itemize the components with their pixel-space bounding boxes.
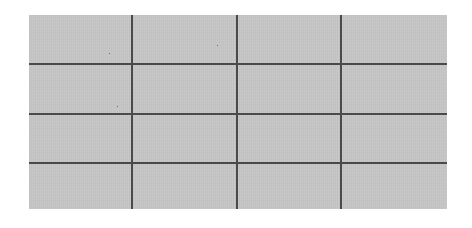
grid-cell-r3-c4 [342,115,447,162]
grid-cell-r3-c1 [29,115,131,162]
grid-line-vertical-3 [340,15,342,209]
grid-cell-r1-c3 [238,15,340,63]
grid-cell-r1-c1 [29,15,131,63]
grid-panel [29,15,447,209]
grid-cell-r3-c2 [133,115,236,162]
grid-cell-r2-c4 [342,65,447,113]
grid-cell-r4-c4 [342,164,447,209]
grid-cell-r2-c1 [29,65,131,113]
grid-cell-r3-c3 [238,115,340,162]
grid-cell-r2-c2 [133,65,236,113]
grid-cell-r4-c3 [238,164,340,209]
grid-line-horizontal-2 [29,113,447,115]
noise-speck [117,106,118,107]
grid-line-horizontal-1 [29,63,447,65]
grid-line-horizontal-3 [29,162,447,164]
grid-cell-r2-c3 [238,65,340,113]
grid-cell-r1-c2 [133,15,236,63]
grid-cell-r4-c2 [133,164,236,209]
grid-cell-r4-c1 [29,164,131,209]
grid-line-vertical-2 [236,15,238,209]
noise-speck [217,45,218,46]
grid-line-vertical-1 [131,15,133,209]
grid-cell-r1-c4 [342,15,447,63]
noise-speck [109,53,110,54]
canvas [0,0,472,228]
